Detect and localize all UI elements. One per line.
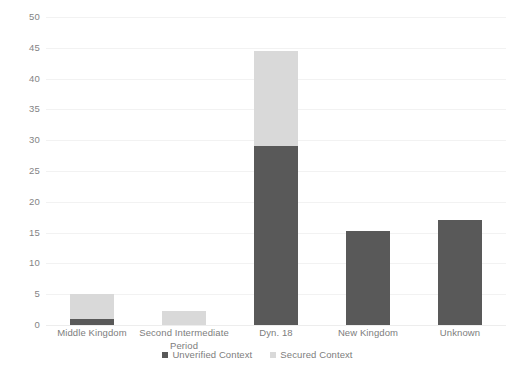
y-axis-tick-label: 50 <box>0 12 40 22</box>
bar-segment[interactable] <box>70 319 114 325</box>
bar-second-intermediate-period[interactable] <box>162 311 206 325</box>
x-axis-label: Unknown <box>414 327 506 340</box>
bar-segment[interactable] <box>438 220 482 325</box>
gridline <box>46 325 506 326</box>
legend-label: Unverified Context <box>172 350 252 360</box>
gridline <box>46 17 506 18</box>
bar-middle-kingdom[interactable] <box>70 294 114 325</box>
legend-item[interactable]: Secured Context <box>270 350 352 360</box>
y-axis-tick-label: 5 <box>0 289 40 299</box>
plot-area <box>46 17 506 325</box>
bar-segment[interactable] <box>162 311 206 325</box>
bar-chart: 05101520253035404550 Middle KingdomSecon… <box>0 0 515 380</box>
y-axis-tick-label: 45 <box>0 43 40 53</box>
y-axis-tick-label: 0 <box>0 320 40 330</box>
bar-dyn-18[interactable] <box>254 51 298 325</box>
y-axis-tick-label: 25 <box>0 166 40 176</box>
x-axis-label: New Kingdom <box>322 327 414 340</box>
y-axis-tick-label: 30 <box>0 135 40 145</box>
bar-segment[interactable] <box>254 146 298 325</box>
x-axis-label: Dyn. 18 <box>230 327 322 340</box>
y-axis-tick-label: 10 <box>0 259 40 269</box>
bar-segment[interactable] <box>346 231 390 325</box>
legend-label: Secured Context <box>280 350 352 360</box>
bottom-artifact-text <box>38 370 338 380</box>
y-axis: 05101520253035404550 <box>0 17 40 325</box>
chart-legend: Unverified ContextSecured Context <box>0 350 515 360</box>
legend-swatch-icon <box>162 352 168 358</box>
y-axis-tick-label: 15 <box>0 228 40 238</box>
bar-segment[interactable] <box>70 294 114 319</box>
y-axis-tick-label: 35 <box>0 105 40 115</box>
bar-new-kingdom[interactable] <box>346 231 390 325</box>
bar-segment[interactable] <box>254 51 298 146</box>
legend-swatch-icon <box>270 352 276 358</box>
y-axis-tick-label: 20 <box>0 197 40 207</box>
x-axis-label: Middle Kingdom <box>46 327 138 340</box>
legend-item[interactable]: Unverified Context <box>162 350 252 360</box>
y-axis-tick-label: 40 <box>0 74 40 84</box>
bar-unknown[interactable] <box>438 220 482 325</box>
gridline <box>46 48 506 49</box>
